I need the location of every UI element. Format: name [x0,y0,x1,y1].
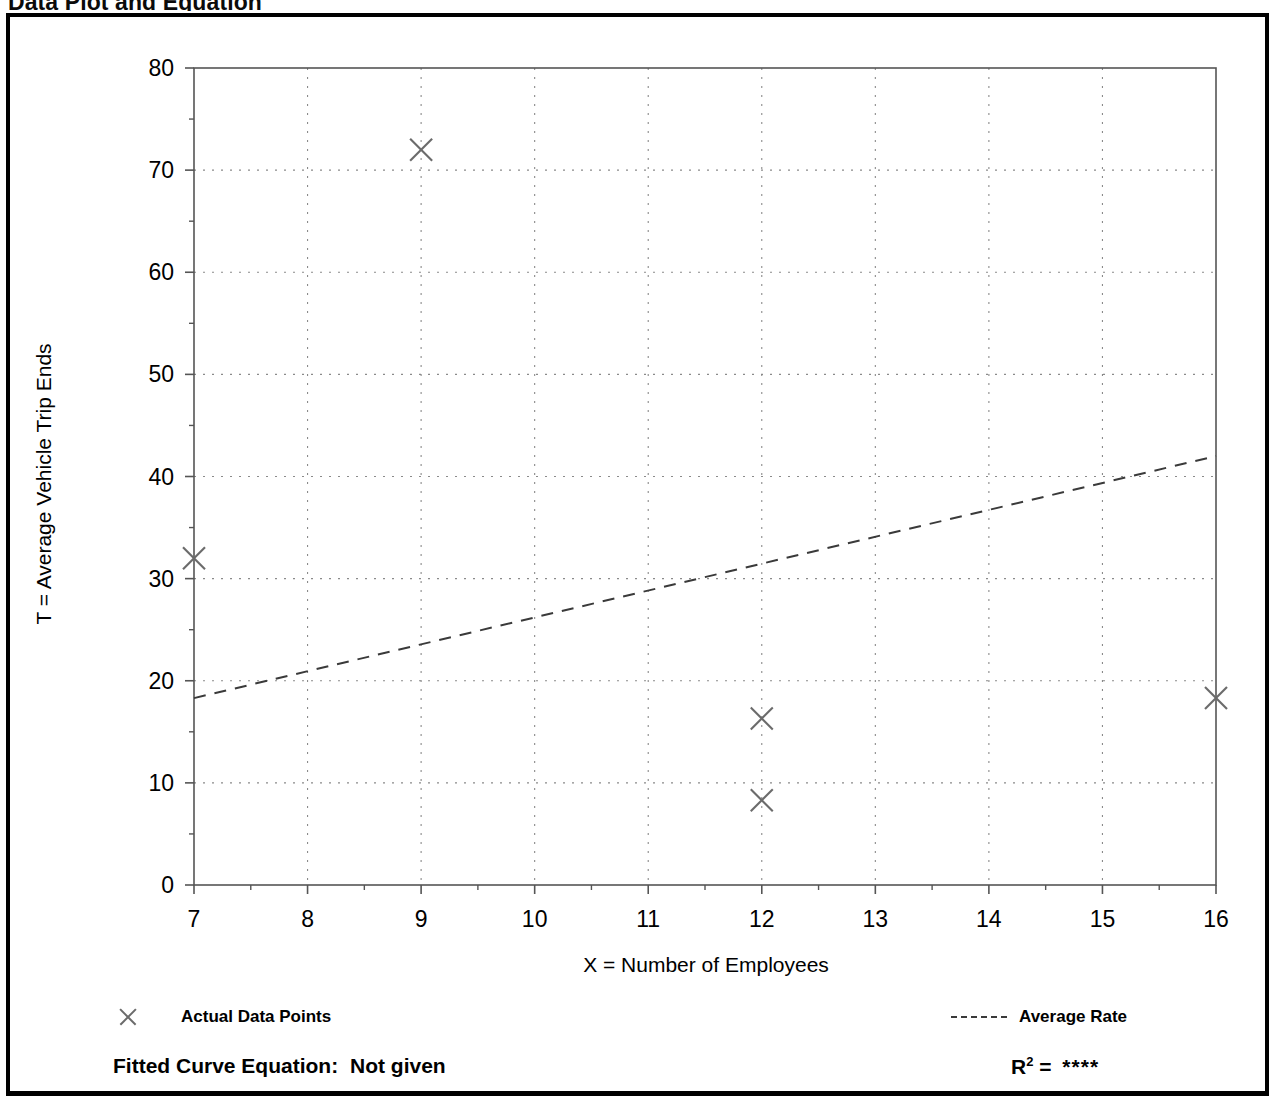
x-axis-tick-label: 7 [188,906,201,932]
legend-label-actual-data-points: Actual Data Points [181,1007,331,1027]
x-axis-tick-label: 12 [749,906,775,932]
y-axis-tick-label: 80 [148,55,174,81]
y-axis-title: T = Average Vehicle Trip Ends [32,319,56,649]
x-marker-icon [113,1006,169,1028]
y-axis-tick-label: 10 [148,770,174,796]
y-axis-tick-label: 60 [148,259,174,285]
r-squared-value: **** [1062,1055,1099,1078]
y-axis-tick-label: 70 [148,157,174,183]
x-axis-tick-label: 10 [522,906,548,932]
r-squared-block: R2 = **** [1011,1054,1099,1079]
scatter-plot-svg: 0102030405060708078910111213141516 [10,17,1265,1092]
y-axis-tick-label: 0 [161,872,174,898]
legend-item-actual-data-points: Actual Data Points [113,1002,331,1032]
equation-value: Not given [350,1054,446,1077]
x-axis-tick-label: 16 [1203,906,1229,932]
x-axis-tick-label: 14 [976,906,1002,932]
dashed-line-icon [951,1006,1007,1028]
x-axis-tick-label: 9 [415,906,428,932]
page-title: Data Plot and Equation [8,0,1269,11]
x-axis-tick-label: 11 [636,906,660,932]
chart-legend: Actual Data Points Average Rate [10,1002,1265,1042]
footer-row: Fitted Curve Equation: Not given R2 = **… [10,1054,1265,1098]
chart-frame: 0102030405060708078910111213141516 T = A… [6,13,1269,1096]
page-title-left: Data Plot and Equation [8,0,262,11]
legend-label-average-rate: Average Rate [1019,1007,1127,1027]
x-axis-tick-label: 15 [1090,906,1116,932]
r-squared-label: R [1011,1055,1026,1078]
x-axis-title: X = Number of Employees [196,953,1216,977]
r-squared-equals: = [1039,1055,1051,1078]
x-axis-tick-label: 8 [301,906,314,932]
fitted-curve-equation: Fitted Curve Equation: Not given [113,1054,446,1078]
legend-item-average-rate: Average Rate [951,1002,1127,1032]
x-axis-tick-label: 13 [863,906,889,932]
chart-stage: 0102030405060708078910111213141516 T = A… [10,17,1265,1092]
y-axis-tick-label: 50 [148,361,174,387]
y-axis-tick-label: 40 [148,464,174,490]
equation-label: Fitted Curve Equation: [113,1054,338,1077]
y-axis-tick-label: 20 [148,668,174,694]
r-squared-exponent: 2 [1026,1054,1033,1069]
trend-line-average-rate [194,456,1216,698]
y-axis-tick-label: 30 [148,566,174,592]
